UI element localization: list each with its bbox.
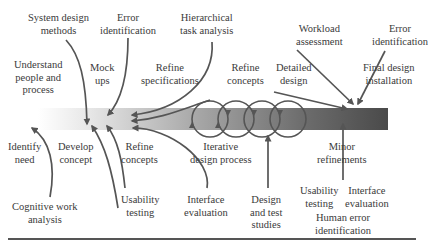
label-interface-evaluation-1: Interface evaluation xyxy=(184,194,228,219)
label-error-identification-1: Error identification xyxy=(100,12,156,37)
label-identify-need: Identify need xyxy=(8,141,41,166)
label-final-design-installation: Final design installation xyxy=(363,62,415,87)
label-workload-assessment: Workload assessment xyxy=(296,23,343,48)
label-mock-ups: Mock ups xyxy=(90,62,115,87)
label-cognitive-work-analysis: Cognitive work analysis xyxy=(12,201,78,226)
label-refine-specifications: Refine specifications xyxy=(141,62,199,87)
timeline-bar xyxy=(38,108,388,130)
label-develop-concept: Develop concept xyxy=(58,141,94,166)
label-usability-testing-2: Usability testing xyxy=(300,185,339,210)
label-interface-evaluation-2: Interface evaluation xyxy=(345,185,389,210)
label-iterative-design-process: Iterative design process xyxy=(190,141,252,166)
label-understand-people: Understand people and process xyxy=(14,59,62,97)
label-usability-testing-1: Usability testing xyxy=(121,194,160,219)
label-hierarchical-task-analysis: Hierarchical task analysis xyxy=(180,12,233,37)
label-refine-concepts-bottom: Refine concepts xyxy=(121,141,158,166)
label-error-identification-2: Error identification xyxy=(372,23,428,48)
label-detailed-design: Detailed design xyxy=(276,62,312,87)
label-system-design-methods: System design methods xyxy=(28,12,89,37)
bottom-rule xyxy=(8,238,416,240)
label-minor-refinements: Minor refinements xyxy=(317,141,367,166)
label-human-error-identification: Human error identification xyxy=(315,212,371,237)
label-refine-concepts-top: Refine concepts xyxy=(227,62,264,87)
label-design-and-test-studies: Design and test studies xyxy=(250,194,282,232)
